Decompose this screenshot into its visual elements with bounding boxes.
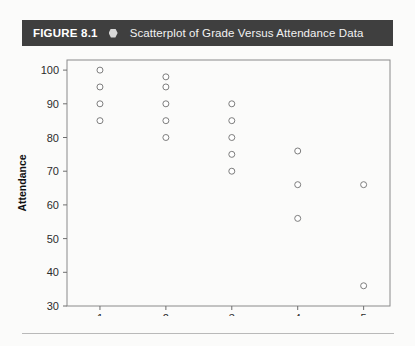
y-axis-tick-label: 40 bbox=[47, 266, 59, 278]
y-axis-tick-label: 80 bbox=[47, 132, 59, 144]
scatter-point bbox=[229, 135, 235, 141]
scatter-point bbox=[229, 118, 235, 124]
scatter-point bbox=[163, 118, 169, 124]
scatter-point bbox=[97, 67, 103, 73]
figure-title-label: Scatterplot of Grade Versus Attendance D… bbox=[130, 27, 364, 39]
x-axis-tick-label: 2 bbox=[163, 312, 169, 316]
x-axis-tick-label: 1 bbox=[97, 312, 103, 316]
scatter-point bbox=[295, 182, 301, 188]
scatter-point bbox=[163, 135, 169, 141]
scatter-point bbox=[295, 215, 301, 221]
hexagon-bullet-icon bbox=[109, 29, 118, 38]
bottom-divider bbox=[22, 333, 394, 334]
scatter-point bbox=[295, 148, 301, 154]
x-axis-tick-label: 5 bbox=[361, 312, 367, 316]
x-axis-tick-label: 4 bbox=[295, 312, 301, 316]
scatter-point bbox=[97, 118, 103, 124]
scatter-point bbox=[163, 84, 169, 90]
scatter-point bbox=[97, 101, 103, 107]
data-points bbox=[97, 67, 367, 289]
y-axis-tick-label: 60 bbox=[47, 199, 59, 211]
scatter-point bbox=[229, 101, 235, 107]
scatter-point bbox=[361, 182, 367, 188]
y-axis-tick-label: 90 bbox=[47, 98, 59, 110]
figure-number-label: FIGURE 8.1 bbox=[33, 27, 98, 39]
scatter-point bbox=[229, 168, 235, 174]
y-axis-tick-label: 70 bbox=[47, 165, 59, 177]
x-axis-ticks: 12345 bbox=[97, 306, 367, 316]
scatter-point bbox=[361, 283, 367, 289]
scatterplot-chart: 30405060708090100 12345 Attendance Grade bbox=[0, 48, 415, 316]
figure-caption-bar: FIGURE 8.1 Scatterplot of Grade Versus A… bbox=[22, 20, 393, 46]
scatter-point bbox=[163, 101, 169, 107]
y-axis-ticks: 30405060708090100 bbox=[41, 64, 67, 312]
figure-page: FIGURE 8.1 Scatterplot of Grade Versus A… bbox=[0, 0, 415, 346]
scatter-point bbox=[97, 84, 103, 90]
y-axis-tick-label: 100 bbox=[41, 64, 59, 76]
scatter-point bbox=[163, 74, 169, 80]
y-axis-tick-label: 30 bbox=[47, 300, 59, 312]
scatter-point bbox=[229, 151, 235, 157]
x-axis-tick-label: 3 bbox=[229, 312, 235, 316]
y-axis-title: Attendance bbox=[16, 154, 28, 211]
y-axis-tick-label: 50 bbox=[47, 233, 59, 245]
plot-frame bbox=[67, 60, 390, 306]
